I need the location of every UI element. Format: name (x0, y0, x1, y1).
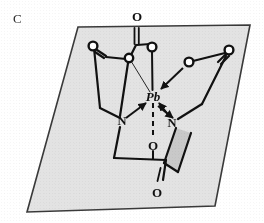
figure-panel: C (0, 0, 264, 223)
atom-label-O-mid: O (148, 138, 158, 153)
atom-O_left-circle (89, 42, 98, 51)
reference-plane (27, 25, 250, 212)
atom-label-O-top: O (132, 9, 142, 24)
atom-label-N-left: N (117, 114, 126, 128)
bond-Oring1-to-Pb (152, 51, 153, 90)
chemical-structure-figure: O Pb N N O O (0, 0, 264, 223)
atom-O_ring2-circle (125, 54, 133, 62)
atom-label-N-right: N (167, 116, 176, 130)
atom-label-O-bottom: O (152, 185, 162, 200)
atom-O_right2-circle (225, 46, 234, 55)
atom-O_right1-circle (185, 58, 194, 67)
atom-label-Pb: Pb (146, 89, 161, 104)
atom-O_ring1-circle (148, 43, 157, 52)
